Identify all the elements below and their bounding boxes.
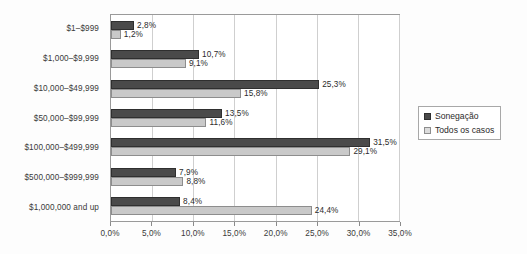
bar-value-label: 29,1% — [353, 147, 377, 156]
x-tick-label: 10,0% — [181, 229, 205, 238]
bar-row: 29,1% — [111, 147, 399, 156]
bar — [111, 89, 241, 98]
bar-row: 11,6% — [111, 118, 399, 127]
x-tick-label: 15,0% — [222, 229, 246, 238]
x-tick-mark — [359, 222, 360, 226]
gridline — [399, 15, 400, 221]
bar — [111, 109, 222, 118]
bar-row: 10,7% — [111, 50, 399, 59]
bar-group: 13,5%11,6% — [111, 103, 399, 132]
bar-value-label: 2,8% — [137, 21, 156, 30]
legend-swatch-icon — [424, 127, 431, 134]
legend-label: Todos os casos — [435, 125, 494, 135]
category-label: $50,000–$99,999 — [0, 103, 105, 133]
x-tick-mark — [110, 222, 111, 226]
legend-label: Sonegação — [435, 111, 479, 121]
legend-item[interactable]: Sonegação — [424, 111, 494, 121]
bar — [111, 147, 350, 156]
x-tick-mark — [317, 222, 318, 226]
bar-row: 1,2% — [111, 30, 399, 39]
bar-row: 13,5% — [111, 109, 399, 118]
category-label: $1–$999 — [0, 14, 105, 44]
category-label: $500,000–$999,999 — [0, 163, 105, 193]
x-tick-mark — [234, 222, 235, 226]
bar-group: 8,4%24,4% — [111, 192, 399, 221]
category-label: $1,000,000 and up — [0, 192, 105, 222]
bar-row: 7,9% — [111, 168, 399, 177]
bar — [111, 168, 176, 177]
bar-value-label: 24,4% — [315, 206, 339, 215]
category-label: $100,000–$499,999 — [0, 133, 105, 163]
legend-item[interactable]: Todos os casos — [424, 125, 494, 135]
x-tick-mark — [400, 222, 401, 226]
bar — [111, 30, 121, 39]
bar — [111, 138, 370, 147]
bar-row: 25,3% — [111, 80, 399, 89]
bar — [111, 21, 134, 30]
bar-value-label: 15,8% — [244, 89, 268, 98]
bar-group: 25,3%15,8% — [111, 74, 399, 103]
bar-row: 2,8% — [111, 21, 399, 30]
x-tick-mark — [193, 222, 194, 226]
bar-group: 10,7%9,1% — [111, 44, 399, 73]
x-tick-label: 0,0% — [100, 229, 119, 238]
bar-value-label: 8,8% — [186, 177, 205, 186]
legend-swatch-icon — [424, 113, 431, 120]
bar-row: 8,8% — [111, 177, 399, 186]
bar-group: 2,8%1,2% — [111, 15, 399, 44]
bar-row: 31,5% — [111, 138, 399, 147]
bar-value-label: 31,5% — [373, 138, 397, 147]
bars-layer: 2,8%1,2%10,7%9,1%25,3%15,8%13,5%11,6%31,… — [111, 15, 399, 221]
plot-area: 2,8%1,2%10,7%9,1%25,3%15,8%13,5%11,6%31,… — [110, 14, 400, 222]
x-tick-label: 35,0% — [388, 229, 412, 238]
bar-row: 24,4% — [111, 206, 399, 215]
bar-value-label: 7,9% — [179, 168, 198, 177]
category-label: $10,000–$49,999 — [0, 73, 105, 103]
bar — [111, 177, 183, 186]
bar — [111, 50, 199, 59]
x-tick-mark — [276, 222, 277, 226]
bar-group: 7,9%8,8% — [111, 162, 399, 191]
x-tick-mark — [151, 222, 152, 226]
bar — [111, 59, 186, 68]
bar-value-label: 8,4% — [183, 197, 202, 206]
bar-value-label: 25,3% — [322, 80, 346, 89]
bar — [111, 80, 319, 89]
bar-group: 31,5%29,1% — [111, 133, 399, 162]
bar-row: 8,4% — [111, 197, 399, 206]
bar-value-label: 9,1% — [189, 59, 208, 68]
bar-value-label: 10,7% — [202, 50, 226, 59]
bar — [111, 197, 180, 206]
bar-chart: $1–$999$1,000–$9,999$10,000–$49,999$50,0… — [0, 0, 527, 254]
x-tick-label: 20,0% — [264, 229, 288, 238]
bar-value-label: 13,5% — [225, 109, 249, 118]
bar — [111, 206, 312, 215]
category-axis: $1–$999$1,000–$9,999$10,000–$49,999$50,0… — [0, 14, 105, 222]
bar-value-label: 11,6% — [209, 118, 232, 127]
x-tick-label: 25,0% — [305, 229, 329, 238]
bar-row: 15,8% — [111, 89, 399, 98]
category-label: $1,000–$9,999 — [0, 44, 105, 74]
bar — [111, 118, 206, 127]
x-tick-label: 30,0% — [347, 229, 371, 238]
x-axis: 0,0%5,0%10,0%15,0%20,0%25,0%30,0%35,0% — [110, 222, 400, 248]
x-tick-label: 5,0% — [142, 229, 161, 238]
chart-legend: SonegaçãoTodos os casos — [418, 106, 501, 140]
bar-row: 9,1% — [111, 59, 399, 68]
bar-value-label: 1,2% — [124, 30, 143, 39]
